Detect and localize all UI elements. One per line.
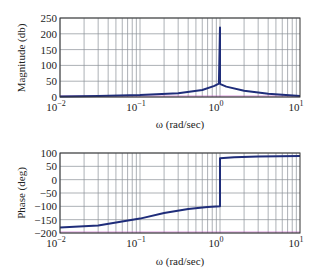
phase-x-label: ω (rad/sec) xyxy=(156,255,205,268)
y-tick-label: 50 xyxy=(46,160,58,172)
x-tick-label: 100 xyxy=(209,99,224,113)
x-tick-label: 10−2 xyxy=(46,99,66,113)
y-tick-label: 50 xyxy=(46,75,58,87)
x-tick-label: 10−1 xyxy=(126,99,146,113)
phase-y-ticks: 100500−50−100−150−200 xyxy=(34,147,57,239)
x-tick-label: 101 xyxy=(289,235,304,249)
x-tick-label: 10−1 xyxy=(126,235,146,249)
phase-x-ticks: 10−210−1100101 xyxy=(46,235,303,249)
y-tick-label: −150 xyxy=(34,214,57,226)
magnitude-y-ticks: 250200150100500 xyxy=(41,12,58,103)
magnitude-curve xyxy=(60,28,300,97)
y-tick-label: 250 xyxy=(41,12,58,24)
y-tick-label: −50 xyxy=(40,187,58,199)
y-tick-label: 0 xyxy=(52,174,58,186)
y-tick-label: 200 xyxy=(41,28,58,40)
magnitude-x-label: ω (rad/sec) xyxy=(156,118,205,131)
bode-plot: 250200150100500 10−210−1100101 Magnitude… xyxy=(0,0,322,277)
magnitude-x-ticks: 10−210−1100101 xyxy=(46,99,303,113)
x-tick-label: 10−2 xyxy=(46,235,66,249)
y-tick-label: 100 xyxy=(41,147,58,159)
x-tick-label: 100 xyxy=(209,235,224,249)
x-tick-label: 101 xyxy=(289,99,304,113)
magnitude-y-label: Magnitude (db) xyxy=(15,23,28,92)
phase-curve xyxy=(60,156,300,232)
y-tick-label: 100 xyxy=(41,59,58,71)
magnitude-axes-frame xyxy=(60,18,300,97)
magnitude-grid xyxy=(60,18,300,97)
phase-grid xyxy=(60,153,300,233)
y-tick-label: −100 xyxy=(34,200,57,212)
phase-y-label: Phase (deg) xyxy=(15,167,28,219)
y-tick-label: 150 xyxy=(41,44,58,56)
series-line xyxy=(60,28,300,97)
